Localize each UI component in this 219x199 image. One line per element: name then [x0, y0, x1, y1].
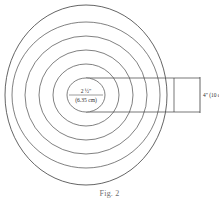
figure-caption: Fig. 2: [0, 189, 219, 199]
target-figure: 2 ½" (6.35 cm) 4" (10 cm) Fig. 2: [0, 0, 219, 199]
ring-width-dimension-label: 4" (10 cm): [203, 92, 219, 99]
center-diameter-label-primary: 2 ½": [81, 88, 92, 94]
target-diagram-svg: 2 ½" (6.35 cm) 4" (10 cm): [0, 0, 219, 199]
center-diameter-label-metric: (6.35 cm): [75, 97, 97, 104]
